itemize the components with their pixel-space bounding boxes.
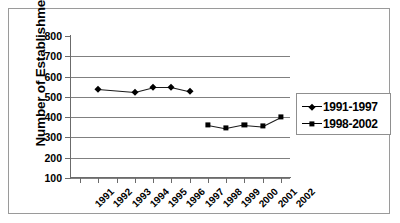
- y-axis-tick-label: 800: [44, 30, 62, 42]
- x-axis-tick-label: 1993: [129, 186, 153, 210]
- x-axis-tick: [98, 178, 99, 183]
- x-axis-tick: [208, 178, 209, 183]
- plot-area: 800700600500400300200100 199119921993199…: [71, 36, 290, 178]
- x-axis-tick: [226, 178, 227, 183]
- diamond-data-point: [186, 88, 192, 94]
- series-line-segment: [98, 89, 135, 93]
- x-axis-tick-label: 1992: [111, 186, 135, 210]
- diamond-data-point: [95, 85, 101, 91]
- x-axis-tick-label: 1997: [202, 186, 226, 210]
- x-axis-tick-label: 2001: [275, 186, 299, 210]
- y-axis-tick: [65, 97, 71, 98]
- x-axis-tick: [244, 178, 245, 183]
- y-axis-tick-label: 600: [44, 71, 62, 83]
- x-axis-tick: [80, 178, 81, 183]
- x-axis-tick-label: 2002: [293, 186, 317, 210]
- y-axis-tick: [65, 36, 71, 37]
- gridline: [71, 56, 290, 57]
- y-axis-tick-label: 400: [44, 111, 62, 123]
- legend-label: 1991-1997: [323, 100, 378, 114]
- y-axis-tick: [65, 137, 71, 138]
- legend-label: 1998-2002: [323, 117, 378, 131]
- y-axis-tick-label: 700: [44, 50, 62, 62]
- x-axis-tick-label: 1996: [184, 186, 208, 210]
- square-data-point: [260, 124, 265, 129]
- y-axis-tick-label: 300: [44, 131, 62, 143]
- x-axis-tick-label: 1998: [220, 186, 244, 210]
- gridline: [71, 158, 290, 159]
- legend-item: 1991-1997: [301, 98, 387, 115]
- y-axis-tick-label: 500: [44, 91, 62, 103]
- x-axis-tick: [171, 178, 172, 183]
- x-axis-tick: [263, 178, 264, 183]
- diamond-data-point: [168, 84, 174, 90]
- gridline: [71, 117, 290, 118]
- x-axis-tick: [117, 178, 118, 183]
- chart-legend: 1991-1997 1998-2002: [296, 93, 391, 135]
- square-data-point: [242, 122, 247, 127]
- x-axis-tick-label: 2000: [257, 186, 281, 210]
- y-axis-tick-label: 100: [44, 172, 62, 184]
- gridline: [71, 178, 290, 179]
- x-axis-tick: [281, 178, 282, 183]
- y-axis-tick: [65, 158, 71, 159]
- y-axis-tick: [65, 77, 71, 78]
- gridline: [71, 97, 290, 98]
- diamond-marker-icon: [301, 101, 323, 112]
- x-axis-tick: [135, 178, 136, 183]
- square-data-point: [278, 115, 283, 120]
- x-axis-tick-label: 1994: [147, 186, 171, 210]
- legend-item: 1998-2002: [301, 115, 387, 132]
- x-axis-tick: [190, 178, 191, 183]
- diamond-data-point: [150, 84, 156, 90]
- y-axis-tick: [65, 56, 71, 57]
- diamond-data-point: [132, 89, 138, 95]
- x-axis-tick: [153, 178, 154, 183]
- chart-frame: Number of Establishments 800700600500400…: [8, 8, 390, 214]
- gridline: [71, 77, 290, 78]
- y-axis-tick-label: 200: [44, 152, 62, 164]
- y-axis-tick: [65, 178, 71, 179]
- square-data-point: [224, 126, 229, 131]
- y-axis-tick: [65, 117, 71, 118]
- square-marker-icon: [301, 118, 323, 129]
- square-data-point: [205, 122, 210, 127]
- gridline: [71, 137, 290, 138]
